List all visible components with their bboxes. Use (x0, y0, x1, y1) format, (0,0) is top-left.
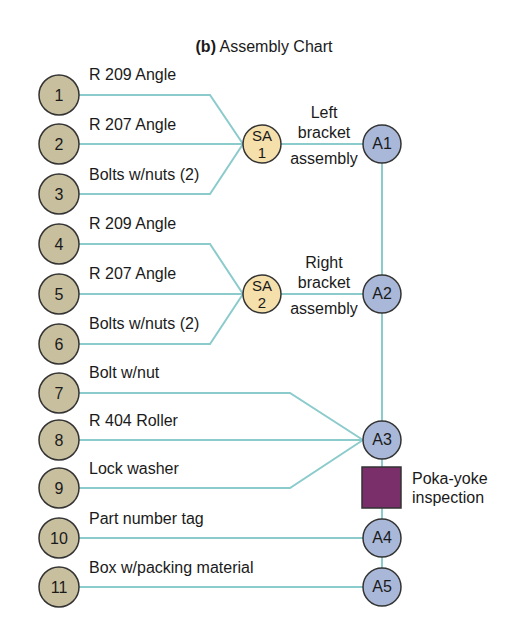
subassembly-1-desc-line3: assembly (284, 150, 364, 168)
subassembly-2-number: 2 (243, 294, 281, 311)
component-number-8: 8 (39, 432, 79, 450)
component-label-2: R 207 Angle (89, 116, 176, 134)
subassembly-2-desc-line3: assembly (284, 300, 364, 318)
component-label-9: Lock washer (89, 460, 179, 478)
component-number-1: 1 (39, 87, 79, 105)
assembly-label-a1: A1 (363, 135, 401, 153)
inspection-box (362, 467, 401, 508)
assembly-chart: (b) Assembly Chart 1 2 3 4 5 6 7 8 9 10 … (0, 0, 528, 627)
component-number-4: 4 (39, 236, 79, 254)
chart-title: (b) Assembly Chart (0, 38, 528, 56)
component-label-8: R 404 Roller (89, 412, 178, 430)
chart-title-text: Assembly Chart (220, 38, 333, 55)
assembly-label-a3: A3 (363, 431, 401, 449)
component-label-6: Bolts w/nuts (2) (89, 315, 199, 333)
component-number-3: 3 (39, 186, 79, 204)
subassembly-1-number: 1 (243, 144, 281, 161)
component-number-2: 2 (39, 136, 79, 154)
assembly-label-a4: A4 (363, 529, 401, 547)
component-label-3: Bolts w/nuts (2) (89, 166, 199, 184)
component-number-9: 9 (39, 480, 79, 498)
inspection-label-line1: Poka-yoke (412, 470, 488, 488)
assembly-label-a5: A5 (363, 578, 401, 596)
inspection-label-line2: inspection (412, 489, 484, 507)
subassembly-node-1-text: SA 1 (243, 127, 281, 161)
component-label-1: R 209 Angle (89, 66, 176, 84)
component-label-7: Bolt w/nut (89, 364, 159, 382)
component-number-7: 7 (39, 385, 79, 403)
subassembly-2-desc-line2: bracket (284, 274, 364, 292)
subassembly-1-desc-line1: Left (284, 104, 364, 122)
component-label-11: Box w/packing material (89, 559, 254, 577)
subassembly-1-desc-line2: bracket (284, 124, 364, 142)
component-number-10: 10 (39, 530, 79, 548)
subassembly-node-2-text: SA 2 (243, 277, 281, 311)
component-label-10: Part number tag (89, 510, 204, 528)
subassembly-2-code: SA (243, 277, 281, 294)
component-number-11: 11 (39, 579, 79, 597)
assembly-label-a2: A2 (363, 285, 401, 303)
component-label-5: R 207 Angle (89, 265, 176, 283)
component-number-6: 6 (39, 336, 79, 354)
diagram-graphics (0, 0, 528, 627)
component-number-5: 5 (39, 286, 79, 304)
subassembly-1-code: SA (243, 127, 281, 144)
component-label-4: R 209 Angle (89, 215, 176, 233)
chart-title-prefix: (b) (196, 38, 216, 55)
subassembly-2-desc-line1: Right (284, 254, 364, 272)
